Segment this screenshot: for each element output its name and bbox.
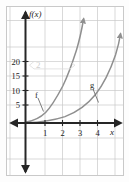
y-axis-label: f(x) — [29, 10, 42, 19]
watermark-layer — [7, 7, 124, 176]
curve-label-f: f — [35, 91, 38, 100]
x-tick-label-1: 1 — [40, 129, 50, 138]
y-tick-label-5: 5 — [6, 101, 20, 110]
watermark-number: 2 — [36, 60, 41, 70]
x-tick-label-3: 3 — [75, 129, 85, 138]
x-axis-label: x — [110, 128, 114, 137]
y-tick-label-15: 15 — [6, 72, 20, 81]
y-tick-label-10: 10 — [6, 87, 20, 96]
y-tick-label-20: 20 — [6, 58, 20, 67]
figure-container: 2 5 10 15 20 1 2 3 4 f(x) x f g — [0, 0, 129, 182]
x-tick-label-2: 2 — [58, 129, 68, 138]
plot-area: 2 5 10 15 20 1 2 3 4 f(x) x f g — [6, 6, 124, 176]
curve-label-g: g — [90, 81, 94, 90]
x-tick-label-4: 4 — [93, 129, 103, 138]
